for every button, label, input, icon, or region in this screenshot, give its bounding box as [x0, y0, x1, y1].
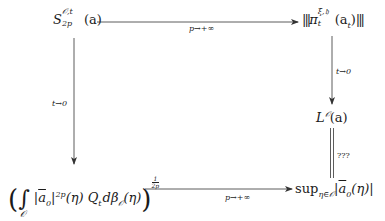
close-paren: ): [141, 184, 151, 214]
node-mid-right-base: L: [316, 110, 325, 125]
measure-arg: (η): [123, 190, 141, 205]
power: 2p: [55, 190, 65, 199]
node-top-right-base: π: [309, 12, 318, 27]
node-top-left-arg: (a): [84, 12, 102, 27]
node-mid-right-arg: (a): [330, 110, 348, 125]
sup-subscript: η∈𝒪: [318, 190, 334, 199]
integrand-arg: (η) Q: [66, 190, 99, 205]
node-top-left: S𝒪,t2p(a): [53, 13, 102, 26]
integral-sign: ∫𝒪: [18, 188, 29, 210]
q-sub: t: [98, 199, 101, 208]
node-top-left-subscript: 2p: [62, 20, 72, 28]
node-top-right-subscript: t: [318, 20, 321, 28]
triple-norm-close: |||: [356, 12, 363, 27]
open-paren: (: [8, 184, 18, 214]
node-mid-right: L𝒪(a): [316, 111, 348, 124]
label-top: p→+∞: [189, 25, 214, 33]
node-bottom-left: (∫𝒪 |a0|2p(η) Qtdβ𝒪(η))12p: [8, 176, 159, 212]
node-top-left-base: S: [53, 12, 62, 27]
abs-close: |: [369, 181, 373, 196]
integral-glyph: ∫: [18, 186, 29, 211]
node-top-right-arg: (a: [335, 12, 348, 27]
label-right-upper: t→0: [336, 68, 351, 76]
arg: (η): [351, 181, 369, 196]
label-bottom: p→+∞: [225, 194, 250, 202]
exponent-denominator: 2p: [152, 182, 160, 189]
node-bottom-right: supη∈𝒪|a0(η)|: [295, 182, 374, 195]
node-top-right: |||πξ,𝔥t(at)|||: [302, 13, 363, 26]
node-top-right-superscript: ξ,𝔥: [318, 8, 329, 16]
node-top-left-superscript: 𝒪,t: [62, 8, 73, 16]
exponent-fraction: 12p: [152, 176, 160, 189]
hat-term: a: [38, 190, 46, 205]
label-left: t→0: [52, 100, 67, 108]
measure: dβ: [103, 190, 119, 205]
integral-domain: 𝒪: [20, 210, 26, 219]
label-right-lower: ???: [337, 152, 350, 160]
sup-operator: sup: [295, 181, 318, 196]
